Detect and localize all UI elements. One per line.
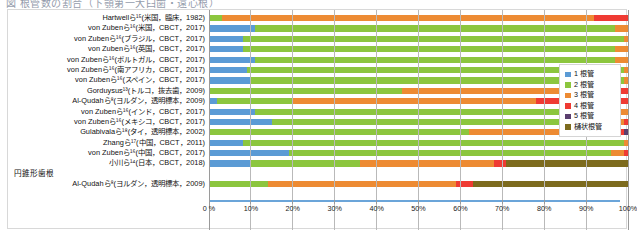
legend-item[interactable]: 樋状根管: [565, 122, 616, 133]
figure-title-cropped: 図 根管数の割合（下顎第一大臼歯・遠心根）: [0, 0, 636, 9]
bar-segment: [243, 46, 616, 52]
bar-row: Al-Qudahら⁸(ヨルダン，透明標本，2009): [8, 179, 628, 189]
x-axis-tick-label: 20%: [286, 204, 300, 213]
bar-track: [209, 138, 628, 148]
bar-segment: [209, 46, 243, 52]
chart-legend: 1 根管2 根管3 根管4 根管5 根管樋状根管: [559, 64, 621, 137]
stacked-bar[interactable]: [209, 140, 628, 146]
bar-segment: [209, 109, 255, 115]
x-axis-tick-label: 70%: [495, 204, 509, 213]
bar-row: von Zubenら¹⁶(中国，CBCT，2017): [8, 148, 628, 158]
bar-segment: [217, 98, 292, 104]
stacked-bar[interactable]: [209, 15, 628, 21]
plot-area: Hartwellら¹⁵(米国，臨床，1982)von Zubenら¹⁶(米国，C…: [8, 10, 628, 230]
bar-row: von Zubenら¹⁶(ブラジル，CBCT，2017): [8, 34, 628, 44]
bar-row: von Zubenら¹⁶(英国，CBCT，2017): [8, 44, 628, 54]
legend-swatch-icon: [565, 103, 571, 109]
bar-segment: [624, 67, 628, 73]
legend-label: 1 根管: [574, 69, 594, 80]
bar-segment: [456, 181, 473, 187]
legend-item[interactable]: 1 根管: [565, 69, 616, 80]
bar-segment: [209, 119, 272, 125]
figure-title-text: 図 根管数の割合（下顎第一大臼歯・遠心根）: [6, 0, 219, 9]
bar-row: 小川ら¹⁴(日本，CBCT，2018): [8, 158, 628, 168]
bar-row: Hartwellら¹⁵(米国，臨床，1982): [8, 13, 628, 23]
bar-row-label: von Zubenら¹⁶(スペイン，CBCT，2017): [8, 75, 209, 85]
bar-row: von Zubenら¹⁶(スペイン，CBCT，2017): [8, 75, 628, 85]
stacked-bar[interactable]: [209, 57, 628, 63]
bar-row-label: Zhangら¹⁷(中国，CBCT，2011): [8, 138, 209, 148]
bar-track: [209, 44, 628, 54]
legend-swatch-icon: [565, 124, 571, 130]
bar-segment: [209, 67, 247, 73]
x-axis-tick-label: 80%: [537, 204, 551, 213]
stacked-bar[interactable]: [209, 150, 628, 156]
bar-row: von Zubenら¹⁶(米国，CBCT，2017): [8, 23, 628, 33]
bar-row-label: Hartwellら¹⁵(米国，臨床，1982): [8, 13, 209, 23]
bar-segment: [615, 46, 628, 52]
bar-row: Zhangら¹⁷(中国，CBCT，2011): [8, 138, 628, 148]
bar-row: von Zubenら¹⁶(南アフリカ，CBCT，2017): [8, 65, 628, 75]
bar-segment: [209, 36, 243, 42]
bar-row-label: von Zubenら¹⁶(ブラジル，CBCT，2017): [8, 34, 209, 44]
x-axis-tick-label: 60%: [453, 204, 467, 213]
bar-group-heading-spacer: [209, 169, 628, 179]
legend-item[interactable]: 3 根管: [565, 90, 616, 101]
bar-segment: [251, 160, 360, 166]
bar-segment: [255, 25, 615, 31]
bar-segment: [209, 140, 243, 146]
bar-segment: [289, 150, 612, 156]
bar-row-label: von Zubenら¹⁶(ポルトガル，CBCT，2017): [8, 55, 209, 65]
bar-segment: [494, 160, 507, 166]
bar-track: [209, 179, 628, 189]
bar-segment: [222, 15, 595, 21]
x-axis: 0 %10%20%30%40%50%60%70%80%90%100%: [8, 200, 628, 226]
x-axis-tick-label: 100%: [619, 204, 637, 213]
bar-row-label: Al-Qudahら⁸(ヨルダン，透明標本，2009): [8, 179, 209, 189]
bar-row: von Zubenら¹⁶(ポルトガル，CBCT，2017): [8, 55, 628, 65]
bar-segment: [624, 150, 628, 156]
stacked-bar[interactable]: [209, 25, 628, 31]
bar-row-label: Gulabivalaら¹⁸(タイ，透明標本，2002): [8, 127, 209, 137]
bar-segment: [243, 36, 624, 42]
bar-segment: [506, 160, 628, 166]
stacked-bar[interactable]: [209, 160, 628, 166]
bar-segment: [209, 88, 402, 94]
bar-row-label: von Zubenら¹⁶(インド，CBCT，2017): [8, 107, 209, 117]
legend-item[interactable]: 4 根管: [565, 101, 616, 112]
legend-item[interactable]: 5 根管: [565, 111, 616, 122]
legend-swatch-icon: [565, 114, 571, 120]
bar-row-label: Gorduysus¹³(トルコ，抜去歯，2009): [8, 86, 209, 96]
stacked-bar[interactable]: [209, 46, 628, 52]
bar-segment: [209, 15, 222, 21]
stacked-bar[interactable]: [209, 181, 628, 187]
bar-row: von Zubenら¹⁶(インド，CBCT，2017): [8, 107, 628, 117]
bar-row-label: von Zubenら¹⁶(中国，CBCT，2017): [8, 148, 209, 158]
bar-row: Gulabivalaら¹⁸(タイ，透明標本，2002): [8, 127, 628, 137]
legend-item[interactable]: 2 根管: [565, 80, 616, 91]
bar-segment: [209, 77, 251, 83]
bar-row-label: von Zubenら¹⁶(メキシコ，CBCT，2017): [8, 117, 209, 127]
bar-group-heading-label: 円錐形歯根: [8, 169, 209, 179]
bar-track: [209, 34, 628, 44]
bar-segment: [624, 119, 628, 125]
bar-track: [209, 13, 628, 23]
chart-frame: Hartwellら¹⁵(米国，臨床，1982)von Zubenら¹⁶(米国，C…: [7, 9, 627, 229]
bar-segment: [473, 181, 628, 187]
bar-segment: [209, 181, 268, 187]
bar-row-label: von Zubenら¹⁶(英国，CBCT，2017): [8, 44, 209, 54]
bar-row: Al-Qudahら⁸(ヨルダン，透明標本，2009): [8, 96, 628, 106]
bar-segment: [209, 129, 469, 135]
legend-swatch-icon: [565, 82, 571, 88]
legend-label: 2 根管: [574, 80, 594, 91]
bar-group-heading: 円錐形歯根: [8, 169, 628, 179]
bar-row-label: von Zubenら¹⁶(米国，CBCT，2017): [8, 23, 209, 33]
bar-segment: [402, 88, 578, 94]
legend-swatch-icon: [565, 72, 571, 78]
x-axis-tick-label: 50%: [411, 204, 425, 213]
bar-row-label: 小川ら¹⁴(日本，CBCT，2018): [8, 158, 209, 168]
x-axis-tick-label: 30%: [327, 204, 341, 213]
bar-track: [209, 158, 628, 168]
bar-segment: [360, 160, 494, 166]
stacked-bar[interactable]: [209, 36, 628, 42]
